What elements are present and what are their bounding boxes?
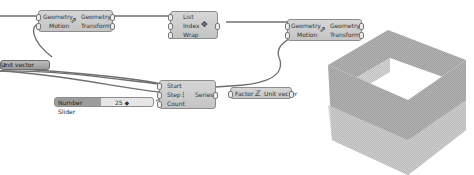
input-motion: Motion [49, 22, 69, 29]
input-grip[interactable] [157, 83, 162, 90]
unit-vector-component[interactable]: Factor ℤ Unit vector [230, 87, 292, 99]
input-grip[interactable] [168, 14, 173, 21]
input-list: List [183, 13, 194, 20]
param-label: Unit vector [1, 61, 49, 68]
move-icon: ⇗ [319, 25, 326, 34]
input-step: Step [167, 91, 181, 98]
input-grip[interactable] [168, 32, 173, 39]
grasshopper-canvas[interactable]: Geometry Motion ⇗ Geometry Transform Lis… [0, 0, 474, 175]
output-grip[interactable] [359, 23, 364, 30]
series-component[interactable]: Start Step Count ⁝ Series [159, 80, 216, 109]
unit-z-icon: z [3, 61, 6, 68]
input-geometry: Geometry [291, 22, 321, 29]
slider-value[interactable]: 25 ◆ [115, 98, 129, 107]
input-grip[interactable] [36, 23, 41, 30]
output-grip[interactable] [213, 92, 218, 99]
output-transform: Transform [81, 22, 111, 29]
input-grip[interactable] [36, 14, 41, 21]
series-icon: ⁝ [182, 90, 185, 99]
move-component-1[interactable]: Geometry Motion ⇗ Geometry Transform [38, 10, 113, 32]
input-motion: Motion [297, 31, 317, 38]
input-start: Start [167, 82, 182, 89]
list-item-icon: ✥ [201, 20, 208, 29]
input-grip[interactable] [157, 92, 162, 99]
output-grip[interactable] [110, 23, 115, 30]
input-factor: Factor [235, 90, 253, 97]
output-grip[interactable] [289, 91, 294, 98]
input-grip[interactable] [285, 32, 290, 39]
unit-z-icon: ℤ [255, 89, 261, 98]
output-geometry: Geometry [330, 22, 360, 29]
move-icon: ⇗ [70, 16, 77, 25]
input-geometry: Geometry [43, 13, 73, 20]
output-grip[interactable] [215, 23, 220, 30]
input-grip[interactable] [168, 23, 173, 30]
viewport-hollow-box [328, 30, 474, 175]
input-count: Count [167, 100, 185, 107]
list-item-component[interactable]: List Index Wrap ✥ [170, 11, 218, 39]
input-grip[interactable] [228, 91, 233, 98]
slider-label: Number Slider [55, 98, 101, 106]
number-slider[interactable]: Number Slider 25 ◆ [54, 97, 154, 107]
unit-vector-param[interactable]: z Unit vector [0, 60, 50, 70]
input-grip[interactable] [157, 101, 162, 108]
output-series: Series [195, 91, 213, 98]
output-geometry: Geometry [81, 13, 111, 20]
input-wrap: Wrap [183, 31, 199, 38]
input-grip[interactable] [285, 23, 290, 30]
output-grip[interactable] [110, 14, 115, 21]
input-index: Index [183, 22, 200, 29]
